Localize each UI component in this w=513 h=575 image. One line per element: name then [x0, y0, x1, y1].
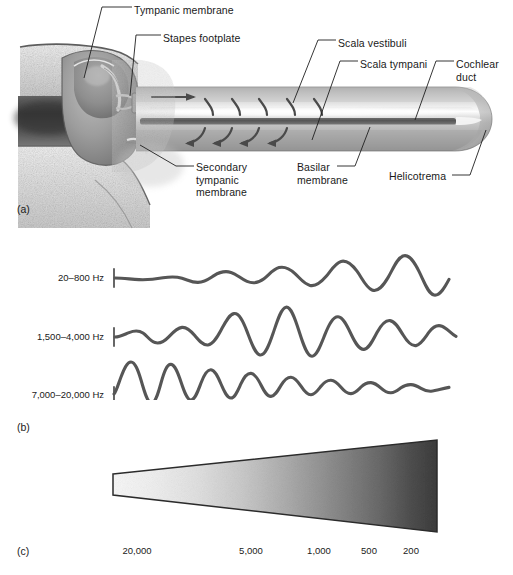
label-stapes-footplate: Stapes footplate — [163, 32, 241, 45]
label-cochlear-duct: Cochlear duct — [456, 58, 499, 83]
scale-tick-1000: 1,000 — [292, 545, 346, 556]
basilar-membrane-wedge-shape — [113, 440, 437, 532]
waveform-7000-20000 — [114, 362, 449, 400]
freq-label-1500-4000: 1,500–4,000 Hz — [0, 331, 104, 342]
panel-a-illustration — [0, 0, 513, 232]
tissue-overlap — [112, 60, 184, 187]
label-tympanic-membrane: Tympanic membrane — [134, 4, 234, 17]
label-scala-vestibuli: Scala vestibuli — [338, 37, 407, 50]
waveform-1500-4000 — [115, 307, 456, 356]
cochlea-figure: Tympanic membrane Stapes footplate Scala… — [0, 0, 513, 575]
freq-label-7000-20000: 7,000–20,000 Hz — [0, 389, 104, 400]
scale-tick-5000: 5,000 — [224, 545, 278, 556]
label-scala-tympani: Scala tympani — [360, 58, 427, 71]
uncoiled-cochlea-tube — [136, 87, 492, 151]
panel-letter-a: (a) — [17, 203, 30, 215]
panel-c-wedge — [0, 430, 513, 550]
label-helicotrema: Helicotrema — [389, 170, 446, 183]
scale-tick-200: 200 — [389, 545, 433, 556]
scale-tick-500: 500 — [347, 545, 391, 556]
panel-letter-c: (c) — [17, 545, 29, 557]
freq-label-20-800: 20–800 Hz — [0, 272, 104, 283]
waveform-20-800 — [115, 256, 449, 295]
basilar-membrane-bar — [140, 118, 456, 125]
label-secondary-tympanic-membrane: Secondary tympanic membrane — [196, 161, 247, 199]
scale-tick-20000: 20,000 — [107, 545, 167, 556]
label-basilar-membrane: Basilar membrane — [297, 161, 348, 186]
